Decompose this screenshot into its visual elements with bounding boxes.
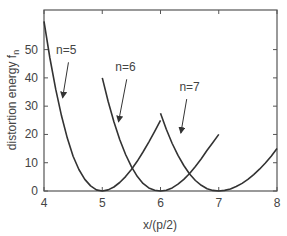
x-tick-label: 6 bbox=[157, 196, 164, 210]
series-n-6 bbox=[102, 78, 219, 191]
series-layer bbox=[44, 21, 277, 191]
y-tick-label: 30 bbox=[25, 99, 39, 113]
x-axis-label: x/(p/2) bbox=[143, 218, 177, 232]
annotation-arrow-icon bbox=[63, 62, 69, 97]
x-tick-label: 8 bbox=[274, 196, 281, 210]
y-tick-label: 0 bbox=[31, 184, 38, 198]
plot-area-border bbox=[44, 10, 277, 191]
x-tick-label: 4 bbox=[41, 196, 48, 210]
annotation-label-n-5: n=5 bbox=[56, 43, 77, 57]
x-tick-label: 7 bbox=[215, 196, 222, 210]
annotations-layer: n=5n=6n=7 bbox=[56, 43, 200, 133]
series-n-7 bbox=[161, 113, 278, 191]
y-axis-label-main: distortion energy f bbox=[5, 54, 19, 150]
y-tick-label: 40 bbox=[25, 71, 39, 85]
annotation-label-n-6: n=6 bbox=[115, 60, 136, 74]
annotation-label-n-7: n=7 bbox=[179, 80, 200, 94]
y-axis-label-subscript: n bbox=[11, 50, 21, 55]
y-tick-label: 50 bbox=[25, 43, 39, 57]
plot-frame bbox=[44, 10, 277, 191]
axis-ticks: 4567801020304050 bbox=[25, 10, 281, 210]
annotation-arrow-icon bbox=[119, 79, 127, 121]
y-axis-label: distortion energy fn bbox=[5, 50, 21, 150]
annotation-arrow-icon bbox=[181, 99, 187, 133]
x-tick-label: 5 bbox=[99, 196, 106, 210]
y-tick-label: 10 bbox=[25, 156, 39, 170]
distortion-energy-chart: 4567801020304050 n=5n=6n=7 x/(p/2) disto… bbox=[0, 0, 287, 236]
y-tick-label: 20 bbox=[25, 127, 39, 141]
